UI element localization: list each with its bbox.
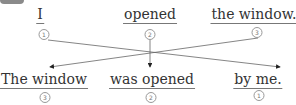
top-word-verb: opened (123, 6, 177, 24)
bottom-word-agent: by me. (233, 71, 282, 89)
top-order-1: 1 (39, 29, 50, 40)
top-order-3: 3 (252, 27, 263, 38)
top-word-subject: I (36, 6, 44, 24)
bottom-word-subject: The window (0, 71, 88, 89)
bottom-order-3: 3 (40, 92, 51, 103)
arrow-subject-to-agent (48, 40, 280, 67)
top-word-object: the window. (210, 6, 296, 24)
arrow-object-to-subject (50, 38, 258, 67)
bottom-order-2: 2 (146, 92, 157, 103)
bottom-order-1: 1 (254, 90, 265, 101)
top-order-2: 2 (145, 29, 156, 40)
bottom-word-verb: was opened (109, 71, 195, 89)
